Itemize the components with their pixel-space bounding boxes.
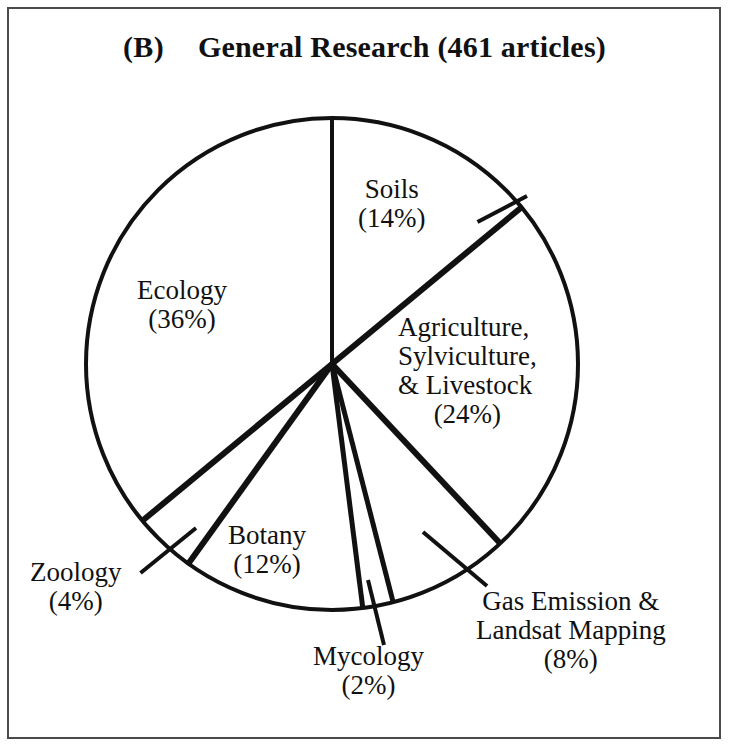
slice-label-mycology-percent: (2%): [313, 671, 424, 700]
pie-chart-figure: (B) General Research (461 articles): [0, 0, 729, 747]
slice-label-gas-emission-percent: (8%): [476, 645, 666, 674]
slice-label-ecology-name: Ecology: [137, 275, 227, 305]
slice-label-agriculture-percent: (24%): [398, 400, 537, 429]
slice-label-botany-name: Botany: [228, 520, 306, 550]
slice-label-zoology: Zoology (4%): [30, 558, 122, 616]
slice-label-gas-emission-line2: Landsat Mapping: [476, 615, 666, 645]
slice-label-gas-emission: Gas Emission & Landsat Mapping (8%): [476, 587, 666, 674]
slice-label-agriculture-line3: & Livestock: [398, 370, 532, 400]
slice-label-agriculture-line1: Agriculture,: [398, 312, 529, 342]
slice-label-ecology-percent: (36%): [137, 305, 227, 334]
slice-label-agriculture: Agriculture, Sylviculture, & Livestock (…: [398, 313, 537, 430]
slice-label-mycology-name: Mycology: [313, 641, 424, 671]
slice-label-ecology: Ecology (36%): [137, 276, 227, 334]
slice-label-mycology: Mycology (2%): [313, 642, 424, 700]
slice-label-soils: Soils (14%): [358, 175, 425, 233]
slice-label-botany: Botany (12%): [228, 521, 306, 579]
slice-label-zoology-percent: (4%): [30, 587, 122, 616]
slice-label-botany-percent: (12%): [228, 550, 306, 579]
slice-label-agriculture-line2: Sylviculture,: [398, 341, 537, 371]
slice-label-soils-name: Soils: [365, 174, 419, 204]
slice-label-zoology-name: Zoology: [30, 557, 122, 587]
slice-label-soils-percent: (14%): [358, 204, 425, 233]
slice-label-gas-emission-line1: Gas Emission &: [482, 586, 659, 616]
